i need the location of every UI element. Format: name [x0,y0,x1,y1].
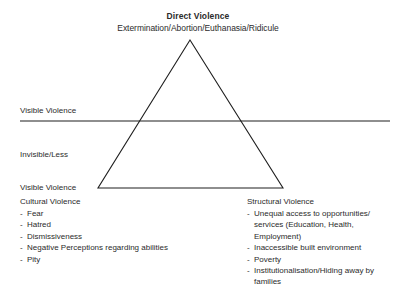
cultural-violence-list: -Fear -Hatred -Dismissiveness -Negative … [20,208,235,265]
bullet-dash-icon: - [20,219,23,230]
list-item-label: Negative Perceptions regarding abilities [27,243,168,252]
bullet-dash-icon: - [20,208,23,219]
list-item-label: Unequal access to opportunities/ service… [254,209,370,241]
list-item: -Inaccessible built environment [247,242,392,253]
list-item-label: Institutionalisation/Hiding away by fami… [254,266,374,286]
list-item: -Negative Perceptions regarding abilitie… [20,242,235,253]
structural-violence-block: Structural Violence -Unequal access to o… [247,196,392,288]
direct-violence-title: Direct Violence Extermination/Abortion/E… [0,10,396,34]
bullet-dash-icon: - [20,242,23,253]
bullet-dash-icon: - [247,254,250,265]
bullet-dash-icon: - [247,265,250,276]
direct-violence-subheading: Extermination/Abortion/Euthanasia/Ridicu… [0,22,396,34]
list-item: -Pity [20,254,235,265]
invisible-violence-label-line2: Visible Violence [20,182,76,193]
invisible-violence-label-line1: Invisible/Less [20,149,76,160]
bullet-dash-icon: - [20,254,23,265]
violence-triangle-diagram: Direct Violence Extermination/Abortion/E… [0,0,396,307]
bullet-dash-icon: - [20,231,23,242]
bullet-dash-icon: - [247,208,250,219]
direct-violence-heading: Direct Violence [0,10,396,22]
list-item: -Institutionalisation/Hiding away by fam… [247,265,392,288]
structural-violence-list: -Unequal access to opportunities/ servic… [247,208,392,288]
list-item-label: Fear [27,209,43,218]
list-item-label: Poverty [254,255,281,264]
list-item: -Unequal access to opportunities/ servic… [247,208,392,242]
bullet-dash-icon: - [247,242,250,253]
structural-violence-heading: Structural Violence [247,196,392,208]
list-item-label: Dismissiveness [27,232,82,241]
list-item: -Fear [20,208,235,219]
list-item-label: Hatred [27,220,51,229]
list-item: -Hatred [20,219,235,230]
cultural-violence-block: Cultural Violence -Fear -Hatred -Dismiss… [20,196,235,265]
list-item-label: Inaccessible built environment [254,243,361,252]
list-item-label: Pity [27,255,40,264]
cultural-violence-heading: Cultural Violence [20,196,235,208]
violence-triangle-shape [98,40,283,188]
list-item: -Poverty [247,254,392,265]
visible-violence-label: Visible Violence [20,105,76,116]
list-item: -Dismissiveness [20,231,235,242]
